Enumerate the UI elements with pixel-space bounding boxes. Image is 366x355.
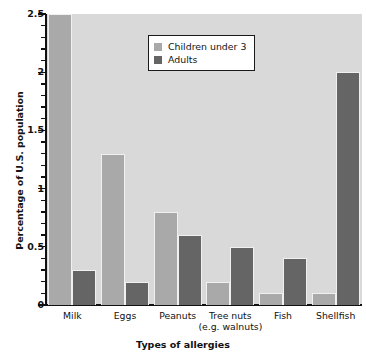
y-axis-tick-label: 0.5 bbox=[4, 241, 44, 252]
legend-label-children: Children under 3 bbox=[168, 41, 246, 52]
bar bbox=[336, 72, 360, 305]
bar bbox=[125, 282, 149, 305]
bar bbox=[72, 270, 96, 305]
x-axis-tick-label: Shellfish bbox=[286, 310, 366, 321]
y-axis-tick-label: 2 bbox=[4, 66, 44, 77]
x-axis-title: Types of allergies bbox=[0, 339, 366, 350]
y-axis-tick-label: 0 bbox=[4, 299, 44, 310]
legend-item: Children under 3 bbox=[154, 40, 246, 53]
legend-item: Adults bbox=[154, 53, 246, 66]
bar bbox=[154, 212, 178, 305]
legend-swatch-children-icon bbox=[154, 43, 162, 51]
legend-swatch-adults-icon bbox=[154, 56, 162, 64]
bar bbox=[206, 282, 230, 305]
bar bbox=[312, 293, 336, 305]
bar bbox=[48, 14, 72, 305]
bar bbox=[259, 293, 283, 305]
bar bbox=[283, 258, 307, 305]
y-axis-tick-label: 2.5 bbox=[4, 8, 44, 19]
bar bbox=[101, 154, 125, 305]
bar-chart: Percentage of U.S. population 00.511.522… bbox=[0, 0, 366, 355]
y-axis-tick-label: 1 bbox=[4, 183, 44, 194]
legend: Children under 3 Adults bbox=[148, 35, 255, 71]
y-axis-tick-label: 1.5 bbox=[4, 124, 44, 135]
bar bbox=[178, 235, 202, 305]
bar bbox=[230, 247, 254, 305]
legend-label-adults: Adults bbox=[168, 54, 197, 65]
